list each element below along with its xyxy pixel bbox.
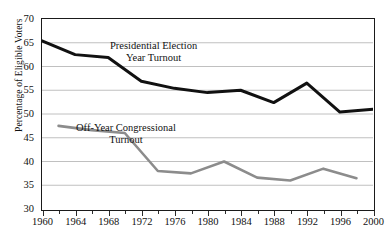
x-minor-tick-1982 [225,211,226,214]
x-major-tick-1980 [208,211,209,216]
x-minor-tick-1986 [258,211,259,214]
annotation-presidential: Presidential Election Year Turnout [110,40,197,64]
x-major-tick-2000 [374,211,375,216]
x-tick-label-2000: 2000 [354,216,391,227]
x-minor-tick-1970 [125,211,126,214]
annotation-offyear-line2: Turnout [76,134,176,146]
x-minor-tick-1990 [291,211,292,214]
x-minor-tick-1966 [92,211,93,214]
x-major-tick-1968 [109,211,110,216]
x-major-tick-1960 [43,211,44,216]
y-tick-label-70: 70 [12,14,34,24]
x-minor-tick-1962 [59,211,60,214]
x-major-tick-1972 [142,211,143,216]
x-minor-tick-1978 [192,211,193,214]
x-major-tick-1996 [341,211,342,216]
x-minor-tick-1994 [324,211,325,214]
y-tick-label-50: 50 [12,109,34,119]
chart-figure: Percentage of Eligible Voters 3035404550… [0,0,391,242]
x-major-tick-1988 [274,211,275,216]
annotation-offyear: Off-Year Congressional Turnout [76,122,176,146]
y-tick-label-65: 65 [12,38,34,48]
x-minor-tick-1998 [357,211,358,214]
x-major-tick-1984 [241,211,242,216]
x-major-tick-1976 [175,211,176,216]
plot-svg [42,19,373,209]
x-minor-tick-1974 [158,211,159,214]
y-tick-label-60: 60 [12,62,34,72]
plot-area [41,18,375,211]
x-major-tick-1992 [307,211,308,216]
y-tick-label-30: 30 [12,204,34,214]
y-tick-label-40: 40 [12,157,34,167]
annotation-offyear-line1: Off-Year Congressional [76,122,176,134]
y-tick-label-35: 35 [12,180,34,190]
y-tick-label-55: 55 [12,85,34,95]
annotation-presidential-line1: Presidential Election [110,40,197,52]
annotation-presidential-line2: Year Turnout [110,52,197,64]
x-major-tick-1964 [76,211,77,216]
y-tick-label-45: 45 [12,133,34,143]
series-line-presidential [42,41,373,112]
